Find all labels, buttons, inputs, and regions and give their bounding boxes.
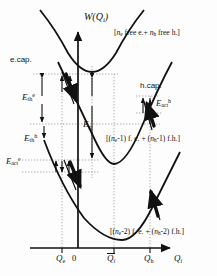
E-th-h-label: Ethh [24,133,37,143]
legend-one-trapped-pair: [(ne-1) f. e. + (nh-1) f.h.] [106,135,180,143]
transition-arrows [66,74,158,216]
E-act-e-label: Eacte [6,157,21,167]
y-axis-label: W(Qi) [84,12,108,23]
legend-two-trapped-pairs: [(ne-2) f. e. + (nh-2) f.h.] [110,228,184,236]
x-axis-label: Qi [174,254,182,264]
legend-free-carriers: [ne free e.+ nh free h.] [114,29,180,37]
curve-two-trapped-pairs [44,140,180,240]
xtick-Qi-bar: Qi [107,253,115,264]
configuration-coordinate-diagram: W(Qi) [ne free e.+ nh free h.] e.cap. h.… [0,0,217,276]
xtick-Qh: Qh [144,254,154,264]
e-cap-label: e.cap. [10,56,32,64]
xtick-zero: 0 [72,254,76,263]
xtick-Qe: Qe [56,254,65,264]
transition-leaders [62,72,160,220]
E-act-h-label: Eacth [156,99,171,109]
h-cap-label: h.cap. [140,82,162,90]
E-th-e-label: Ethe [22,92,35,102]
E-g-label: Eg [83,120,92,130]
